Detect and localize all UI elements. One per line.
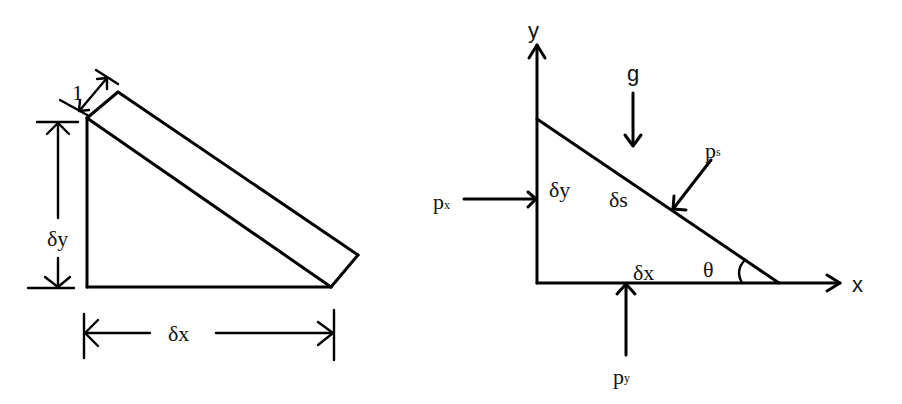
depth-strip — [87, 92, 358, 287]
depth-dimension: 1 — [60, 70, 118, 116]
height-label: δy — [47, 226, 68, 251]
height-label: δy — [549, 177, 570, 202]
px-label: px — [433, 189, 450, 214]
depth-label: 1 — [72, 80, 83, 105]
base-label: δx — [633, 260, 654, 285]
axes: y x — [528, 18, 863, 297]
ps-label: ps — [705, 138, 721, 163]
x-axis-label: x — [852, 272, 863, 297]
hypotenuse-label: δs — [609, 187, 628, 212]
pressure-py: py — [613, 284, 635, 389]
py-label: py — [613, 364, 630, 389]
width-label: δx — [168, 321, 189, 346]
angle-arc — [739, 260, 745, 283]
y-axis-label: y — [528, 18, 539, 43]
right-panel-force-diagram: y x θ g px py — [433, 18, 863, 389]
pressure-px: px — [433, 189, 536, 214]
left-triangle — [87, 118, 331, 287]
pressure-ps: ps — [673, 138, 721, 210]
width-dimension: δx — [84, 310, 334, 360]
gravity-vector: g — [625, 61, 641, 146]
height-dimension: δy — [28, 122, 78, 288]
inclined-face — [537, 119, 779, 283]
angle-label: θ — [703, 257, 714, 282]
gravity-label: g — [627, 61, 639, 86]
figure-canvas: 1 δy δx y — [0, 0, 902, 404]
left-panel-element-diagram: 1 δy δx — [28, 70, 358, 360]
